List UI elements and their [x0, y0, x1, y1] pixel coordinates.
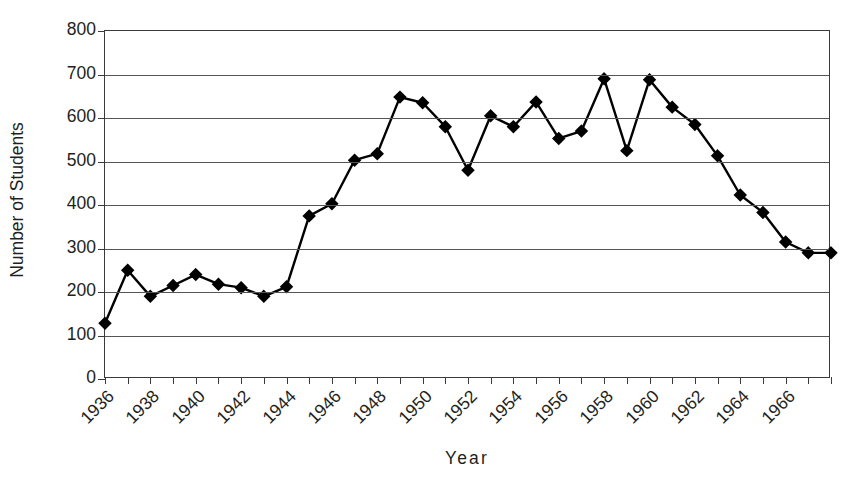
- x-axis-tick-mark: [718, 377, 719, 384]
- series-line: [105, 79, 831, 323]
- y-axis-tick-label: 500: [50, 152, 96, 170]
- x-axis-tick-mark: [763, 377, 764, 384]
- data-point-marker: [213, 279, 224, 290]
- x-axis-tick-label: 1956: [530, 386, 572, 428]
- x-axis-tick-mark: [309, 377, 310, 384]
- y-axis-tick-mark: [98, 336, 105, 337]
- x-axis-tick-mark: [627, 377, 628, 384]
- x-axis-tick-label: 1954: [485, 386, 527, 428]
- gridline: [105, 162, 829, 163]
- gridline: [105, 75, 829, 76]
- y-axis-tick-mark: [98, 162, 105, 163]
- y-axis-tick-mark: [98, 75, 105, 76]
- x-axis-tick-label: 1946: [303, 386, 345, 428]
- x-axis-tick-mark: [128, 377, 129, 384]
- y-axis-tick-label: 100: [50, 326, 96, 344]
- x-axis-tick-mark: [740, 377, 741, 384]
- y-axis-tick-label: 800: [50, 21, 96, 39]
- x-axis-tick-mark: [786, 377, 787, 384]
- x-axis-tick-label: 1950: [394, 386, 436, 428]
- x-axis-tick-mark: [650, 377, 651, 384]
- gridline: [105, 205, 829, 206]
- data-point-marker: [326, 198, 337, 209]
- x-axis-tick-label: 1936: [76, 386, 118, 428]
- x-axis-tick-mark: [287, 377, 288, 384]
- x-axis-tick-mark: [355, 377, 356, 384]
- x-axis-tick-mark: [831, 377, 832, 384]
- x-axis-tick-label: 1938: [122, 386, 164, 428]
- data-point-marker: [281, 281, 292, 292]
- x-axis-tick-mark: [332, 377, 333, 384]
- x-axis-tick-mark: [423, 377, 424, 384]
- data-point-marker: [485, 110, 496, 121]
- gridline: [105, 336, 829, 337]
- gridline: [105, 292, 829, 293]
- y-axis-title: Number of Students: [2, 0, 32, 400]
- plot-area: [104, 30, 830, 378]
- data-point-marker: [99, 318, 110, 329]
- x-axis-tick-mark: [695, 377, 696, 384]
- gridline: [105, 249, 829, 250]
- data-point-marker: [349, 155, 360, 166]
- y-axis-tick-mark: [98, 249, 105, 250]
- x-axis-tick-labels: 1936193819401942194419461948195019521954…: [0, 384, 858, 444]
- x-axis-tick-mark: [468, 377, 469, 384]
- x-axis-tick-mark: [377, 377, 378, 384]
- x-axis-tick-label: 1944: [258, 386, 300, 428]
- x-axis-tick-label: 1960: [621, 386, 663, 428]
- data-point-marker: [394, 92, 405, 103]
- x-axis-tick-mark: [808, 377, 809, 384]
- x-axis-tick-mark: [445, 377, 446, 384]
- x-axis-tick-mark: [491, 377, 492, 384]
- y-axis-tick-mark: [98, 31, 105, 32]
- x-axis-tick-mark: [536, 377, 537, 384]
- x-axis-tick-label: 1964: [712, 386, 754, 428]
- gridline: [105, 118, 829, 119]
- x-axis-tick-label: 1942: [213, 386, 255, 428]
- y-axis-tick-label: 300: [50, 239, 96, 257]
- y-axis-tick-label: 400: [50, 195, 96, 213]
- x-axis-tick-mark: [264, 377, 265, 384]
- x-axis-tick-mark: [400, 377, 401, 384]
- data-point-marker: [167, 280, 178, 291]
- x-axis-tick-mark: [559, 377, 560, 384]
- x-axis-tick-mark: [672, 377, 673, 384]
- x-axis-tick-mark: [604, 377, 605, 384]
- y-axis-title-text: Number of Students: [7, 122, 28, 278]
- x-axis-title: Year: [104, 448, 830, 469]
- x-axis-tick-mark: [105, 377, 106, 384]
- x-axis-tick-label: 1948: [349, 386, 391, 428]
- x-axis-tick-mark: [218, 377, 219, 384]
- data-point-marker: [462, 165, 473, 176]
- x-axis-tick-mark: [196, 377, 197, 384]
- x-axis-tick-label: 1952: [439, 386, 481, 428]
- data-point-marker: [576, 125, 587, 136]
- line-chart-figure: Number of Students 800700600500400300200…: [0, 0, 858, 482]
- x-axis-tick-mark: [173, 377, 174, 384]
- y-axis-tick-label: 700: [50, 65, 96, 83]
- y-axis-tick-mark: [98, 379, 105, 380]
- data-point-marker: [304, 210, 315, 221]
- y-axis-tick-label: 200: [50, 282, 96, 300]
- x-axis-tick-mark: [513, 377, 514, 384]
- y-axis-tick-label: 600: [50, 108, 96, 126]
- y-axis-tick-mark: [98, 292, 105, 293]
- x-axis-tick-label: 1962: [666, 386, 708, 428]
- x-axis-tick-mark: [150, 377, 151, 384]
- x-axis-tick-label: 1966: [757, 386, 799, 428]
- data-point-marker: [372, 148, 383, 159]
- x-axis-tick-label: 1940: [167, 386, 209, 428]
- y-axis-tick-mark: [98, 205, 105, 206]
- data-point-marker: [621, 145, 632, 156]
- x-axis-tick-mark: [241, 377, 242, 384]
- data-point-marker: [190, 269, 201, 280]
- data-point-marker: [553, 133, 564, 144]
- x-axis-tick-mark: [581, 377, 582, 384]
- y-axis-tick-mark: [98, 118, 105, 119]
- x-axis-tick-label: 1958: [576, 386, 618, 428]
